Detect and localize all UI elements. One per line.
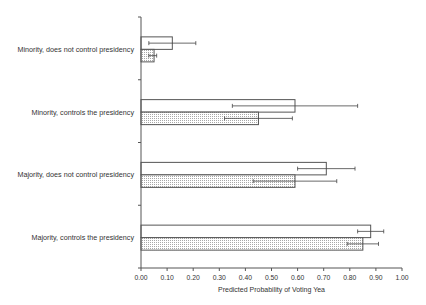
bar-white <box>141 37 196 50</box>
x-tick-label: 1.00 <box>395 274 408 281</box>
bar-rect <box>141 225 371 238</box>
x-axis-title: Predicted Probability of Voting Yea <box>218 286 325 294</box>
x-tick-label: 0.50 <box>265 274 278 281</box>
category-label: Majority, does not control presidency <box>17 170 134 179</box>
x-tick-label: 0.80 <box>343 274 356 281</box>
bar-chart: Minority, does not control presidencyMin… <box>0 0 426 305</box>
x-tick-label: 0.00 <box>134 274 147 281</box>
x-tick-label: 0.60 <box>291 274 304 281</box>
bar-dotted <box>141 175 337 188</box>
x-tick-label: 0.10 <box>160 274 173 281</box>
x-tick-label: 0.70 <box>317 274 330 281</box>
x-axis: 0.000.100.200.300.400.500.600.700.800.90… <box>134 268 408 281</box>
bar-dotted <box>141 112 292 125</box>
bar-white <box>141 162 355 175</box>
category-label: Majority, controls the presidency <box>31 233 134 242</box>
plot-area <box>141 37 384 250</box>
bar-dotted <box>141 238 379 251</box>
category-label: Minority, does not control presidency <box>17 45 134 54</box>
y-axis: Minority, does not control presidencyMin… <box>17 17 141 268</box>
bar-dotted <box>141 49 157 62</box>
x-tick-label: 0.40 <box>239 274 252 281</box>
x-tick-label: 0.20 <box>187 274 200 281</box>
x-tick-label: 0.30 <box>213 274 226 281</box>
bar-white <box>141 100 358 113</box>
category-label: Minority, controls the presidency <box>31 108 134 117</box>
bar-white <box>141 225 384 238</box>
x-tick-label: 0.90 <box>369 274 382 281</box>
bar-rect <box>141 238 363 251</box>
